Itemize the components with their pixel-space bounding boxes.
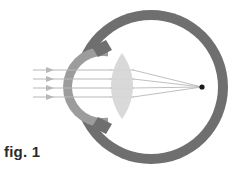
focal-point — [199, 84, 204, 89]
figure-caption: fig. 1 — [4, 142, 40, 162]
figure-container: fig. 1 — [0, 0, 248, 176]
